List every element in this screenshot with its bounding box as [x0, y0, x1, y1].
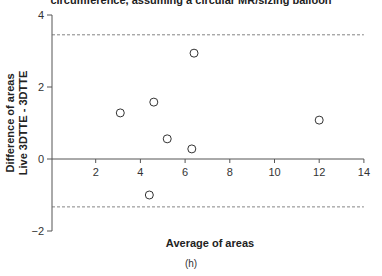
limits-of-agreement — [52, 35, 364, 207]
data-point-marker — [163, 135, 171, 143]
x-tick-label: 8 — [227, 166, 233, 178]
x-tick-label: 6 — [182, 166, 188, 178]
x-tick-label: 4 — [137, 166, 143, 178]
figure-caption: (h) — [0, 258, 382, 269]
x-axis-label: Average of areas — [166, 237, 254, 249]
x-tick-label: 2 — [93, 166, 99, 178]
x-tick-label: 14 — [358, 166, 370, 178]
data-point-marker — [188, 145, 196, 153]
data-point-marker — [145, 191, 153, 199]
data-point-marker — [315, 116, 323, 124]
data-point-marker — [190, 49, 198, 57]
axes: −20242468101214 — [31, 9, 370, 237]
data-points — [116, 49, 323, 199]
data-point-marker — [150, 98, 158, 106]
x-tick-label: 12 — [313, 166, 325, 178]
y-tick-label: 0 — [38, 153, 44, 165]
y-tick-label: 2 — [38, 81, 44, 93]
y-tick-label: 4 — [38, 9, 44, 21]
y-tick-label: −2 — [31, 225, 44, 237]
data-point-marker — [116, 109, 124, 117]
scatter-plot: −20242468101214 Average of areas Differe… — [0, 0, 382, 276]
y-axis-label-line2: Live 3DTTE - 3DTTE — [17, 71, 29, 176]
y-axis-label-line1: Difference of areas — [4, 73, 16, 172]
x-tick-label: 10 — [268, 166, 280, 178]
